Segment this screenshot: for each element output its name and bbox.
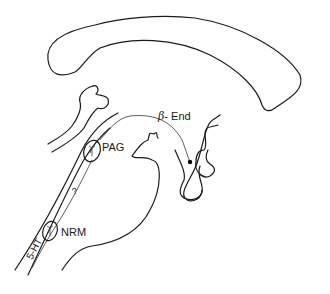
end-text: - End [164, 110, 190, 122]
beta-endorphin-label: β- End [158, 110, 191, 123]
third-ventricle-outer [184, 115, 220, 201]
brain-outline-drawing [0, 0, 330, 294]
corpus-callosum [48, 16, 301, 110]
brainstem-ventral [62, 133, 159, 270]
tectum-curl [48, 86, 93, 144]
serotonin-pathway [32, 160, 92, 268]
arcuate-nucleus-dot [188, 160, 192, 164]
nrm-label: NRM [61, 226, 86, 238]
pag-label: PAG [102, 141, 124, 153]
brain-diagram: β- End PAG NRM ? 5-HT [0, 0, 330, 294]
